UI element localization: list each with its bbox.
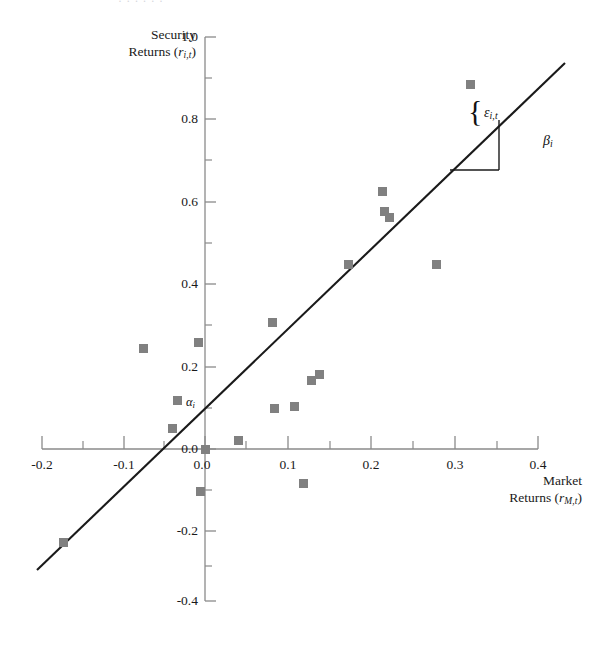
alpha-intercept-annotation: αi <box>186 396 195 410</box>
x-axis-title: Market Returns (rM,t) <box>509 472 582 507</box>
y-axis-minor-ticks <box>205 78 212 566</box>
x-tick-label-1: -0.2 <box>12 458 72 472</box>
y-axis-title-subscript: i,t <box>184 50 192 60</box>
y-tick-label-1: 1.0 <box>160 30 198 44</box>
x-axis-title-subscript: M,t <box>564 496 577 506</box>
data-point <box>59 538 68 547</box>
data-point <box>168 424 177 433</box>
data-point <box>432 260 441 269</box>
data-point <box>344 260 353 269</box>
data-point <box>378 187 387 196</box>
data-point <box>139 344 148 353</box>
data-point <box>315 370 324 379</box>
y-tick-label-3: 0.6 <box>160 195 198 209</box>
x-tick-label-3: 0.0 <box>172 458 232 472</box>
y-tick-label-5: 0.2 <box>160 360 198 374</box>
y-tick-label-4: 0.4 <box>160 277 198 291</box>
scatter-chart-figure: · · · · · · <box>0 0 590 645</box>
x-axis-title-suffix: ) <box>578 490 583 505</box>
alpha-subscript: i <box>193 400 196 410</box>
y-axis-title-line2: Returns (ri,t) <box>128 43 196 61</box>
beta-slope-annotation: βi <box>543 134 553 149</box>
x-tick-label-5: 0.2 <box>341 458 401 472</box>
x-tick-label-4: 0.1 <box>258 458 318 472</box>
y-axis-title-prefix: Returns ( <box>128 44 178 59</box>
y-tick-label-8: -0.4 <box>155 594 198 608</box>
data-point <box>270 404 279 413</box>
data-point <box>196 487 205 496</box>
x-tick-label-2: -0.1 <box>94 458 154 472</box>
x-axis-title-line2: Returns (rM,t) <box>509 489 582 507</box>
y-axis-major-ticks <box>205 37 216 601</box>
data-point <box>194 338 203 347</box>
data-point <box>201 445 210 454</box>
epsilon-subscript: i,t <box>490 110 498 121</box>
data-point <box>290 402 299 411</box>
epsilon-residual-annotation: εi,t <box>484 106 498 121</box>
data-point <box>385 213 394 222</box>
y-axis-title-suffix: ) <box>192 44 197 59</box>
data-point <box>173 396 182 405</box>
y-tick-label-2: 0.8 <box>160 112 198 126</box>
slope-triangle <box>450 120 499 170</box>
data-point <box>307 376 316 385</box>
beta-symbol: β <box>543 133 550 148</box>
y-tick-label-6: 0.0 <box>160 442 198 456</box>
beta-subscript: i <box>550 138 553 149</box>
x-axis-major-ticks <box>42 436 538 449</box>
x-tick-label-7: 0.4 <box>508 458 568 472</box>
plot-canvas <box>0 0 590 645</box>
data-point <box>466 80 475 89</box>
data-points <box>59 80 475 547</box>
x-axis-title-prefix: Returns ( <box>509 490 559 505</box>
data-point <box>234 436 243 445</box>
data-point <box>299 479 308 488</box>
regression-line <box>37 63 565 570</box>
data-point <box>268 318 277 327</box>
x-axis-minor-ticks <box>83 441 497 449</box>
x-axis-title-line1: Market <box>509 472 582 489</box>
y-tick-label-7: -0.2 <box>155 524 198 538</box>
x-tick-label-6: 0.3 <box>425 458 485 472</box>
residual-brace-icon: { <box>468 96 482 126</box>
